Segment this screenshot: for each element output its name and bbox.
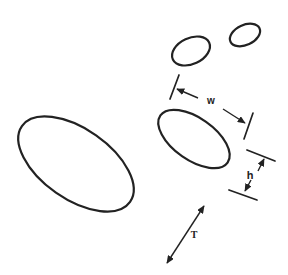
ellipse-smallest-upper-right bbox=[226, 19, 263, 51]
w-extent-tick-1 bbox=[170, 75, 179, 99]
ellipse-small-upper bbox=[167, 31, 214, 71]
h-dimension-arrow-1 bbox=[258, 159, 264, 171]
w-extent-tick-2 bbox=[244, 113, 253, 139]
h-extent-tick-2 bbox=[229, 190, 257, 200]
track-dimension-label: T bbox=[191, 230, 198, 240]
ellipse-large-left bbox=[2, 97, 150, 230]
h-dimension-arrow-2 bbox=[245, 180, 251, 191]
width-dimension-label: w bbox=[207, 96, 215, 106]
track-double-arrow bbox=[167, 206, 204, 263]
height-dimension-label: h bbox=[247, 170, 254, 181]
diagram-lines bbox=[2, 19, 275, 263]
diagram-canvas bbox=[0, 0, 288, 275]
w-dimension-arrow-2 bbox=[223, 109, 245, 123]
h-extent-tick-1 bbox=[247, 150, 275, 161]
figure: w h T bbox=[0, 0, 288, 275]
w-dimension-arrow-1 bbox=[177, 89, 198, 98]
